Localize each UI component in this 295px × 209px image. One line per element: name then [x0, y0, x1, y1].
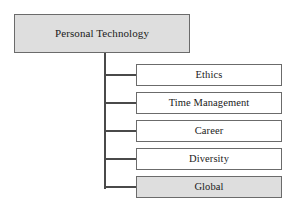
root-node-personal-technology[interactable]: Personal Technology — [14, 14, 190, 53]
child-node-time-management[interactable]: Time Management — [136, 92, 282, 114]
branch-connector-career — [104, 130, 137, 132]
child-node-label: Diversity — [189, 154, 229, 165]
branch-connector-time-management — [104, 102, 137, 104]
branch-connector-global — [104, 186, 137, 188]
root-node-label: Personal Technology — [55, 28, 149, 39]
branch-connector-diversity — [104, 158, 137, 160]
branch-connector-ethics — [104, 74, 137, 76]
child-node-ethics[interactable]: Ethics — [136, 64, 282, 86]
child-node-global[interactable]: Global — [136, 176, 282, 198]
child-node-label: Ethics — [196, 70, 223, 81]
child-node-diversity[interactable]: Diversity — [136, 148, 282, 170]
diagram-canvas: Personal Technology Ethics Time Manageme… — [0, 0, 295, 209]
child-node-career[interactable]: Career — [136, 120, 282, 142]
child-node-label: Career — [195, 126, 224, 137]
child-node-label: Global — [194, 182, 223, 193]
child-node-label: Time Management — [169, 98, 250, 109]
